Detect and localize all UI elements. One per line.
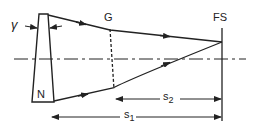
- prism-label: N: [37, 88, 45, 100]
- lower-ray: [54, 42, 222, 101]
- s1-label-sub: 1: [130, 113, 135, 123]
- upper-ray: [48, 15, 222, 42]
- s1-label: s1: [124, 108, 135, 123]
- grating-label: G: [104, 11, 113, 23]
- gamma-arrow-right: [50, 26, 62, 28]
- gamma-arrow-left: [25, 26, 37, 28]
- grating-line: [110, 29, 114, 89]
- gamma-label: γ: [11, 17, 19, 32]
- optical-diagram: γ N G FS s2 s1: [0, 0, 257, 134]
- s2-label-sub: 2: [169, 95, 174, 105]
- field-stop-label: FS: [213, 11, 227, 23]
- s2-label: s2: [163, 90, 174, 105]
